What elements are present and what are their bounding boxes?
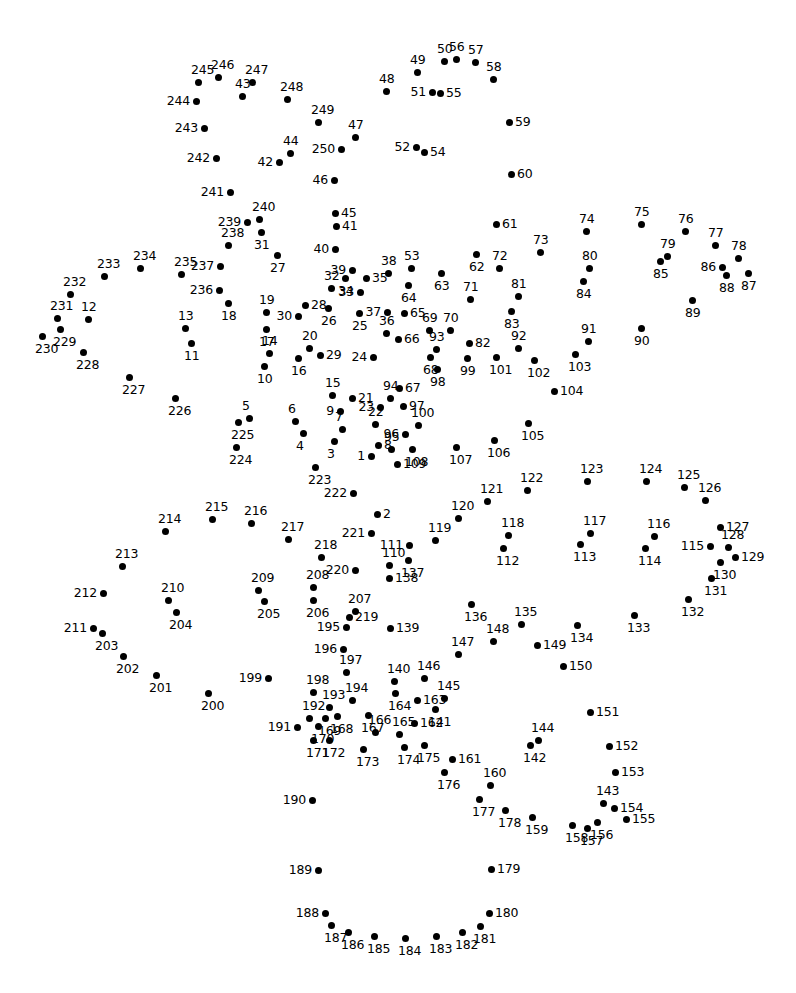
dot-point-155 bbox=[623, 816, 630, 823]
dot-point-61 bbox=[493, 221, 500, 228]
dot-point-14 bbox=[266, 350, 273, 357]
dot-number-218: 218 bbox=[314, 539, 337, 552]
dot-point-138 bbox=[386, 575, 393, 582]
dot-number-80: 80 bbox=[582, 250, 598, 263]
dot-point-190 bbox=[309, 797, 316, 804]
dot-point-128 bbox=[725, 544, 732, 551]
dot-point-232 bbox=[67, 291, 74, 298]
dot-point-109 bbox=[394, 461, 401, 468]
dot-number-242: 242 bbox=[187, 152, 210, 165]
dot-number-224: 224 bbox=[229, 454, 252, 467]
dot-point-212 bbox=[100, 590, 107, 597]
dot-point-89 bbox=[689, 297, 696, 304]
dot-point-58 bbox=[490, 76, 497, 83]
dot-number-233: 233 bbox=[97, 258, 120, 271]
dot-point-5 bbox=[246, 415, 253, 422]
dot-point-101 bbox=[493, 354, 500, 361]
dot-point-23 bbox=[377, 404, 384, 411]
dot-number-115: 115 bbox=[681, 540, 704, 553]
dot-point-68 bbox=[427, 354, 434, 361]
dot-number-91: 91 bbox=[581, 323, 597, 336]
dot-point-168 bbox=[334, 713, 341, 720]
dot-point-19 bbox=[263, 309, 270, 316]
dot-point-119 bbox=[432, 537, 439, 544]
dot-number-173: 173 bbox=[356, 756, 379, 769]
dot-point-217 bbox=[285, 536, 292, 543]
dot-number-13: 13 bbox=[178, 310, 194, 323]
dot-number-96: 96 bbox=[383, 428, 399, 441]
dot-number-149: 149 bbox=[543, 639, 566, 652]
dot-point-92 bbox=[515, 345, 522, 352]
dot-number-155: 155 bbox=[632, 813, 655, 826]
dot-number-150: 150 bbox=[569, 660, 592, 673]
dot-number-26: 26 bbox=[321, 315, 337, 328]
dot-number-199: 199 bbox=[239, 672, 262, 685]
dot-point-40 bbox=[332, 246, 339, 253]
dot-point-16 bbox=[295, 355, 302, 362]
dot-number-76: 76 bbox=[678, 213, 694, 226]
dot-number-5: 5 bbox=[242, 400, 250, 413]
dot-number-231: 231 bbox=[50, 300, 73, 313]
dot-number-124: 124 bbox=[639, 463, 662, 476]
dot-point-182 bbox=[459, 929, 466, 936]
dot-point-94 bbox=[387, 395, 394, 402]
dot-number-129: 129 bbox=[741, 551, 764, 564]
dot-point-91 bbox=[585, 338, 592, 345]
dot-number-86: 86 bbox=[700, 261, 716, 274]
dot-number-57: 57 bbox=[468, 44, 484, 57]
dot-point-225 bbox=[235, 419, 242, 426]
dot-point-163 bbox=[414, 697, 421, 704]
dot-point-173 bbox=[360, 746, 367, 753]
dot-number-240: 240 bbox=[252, 201, 275, 214]
dot-point-193 bbox=[326, 704, 333, 711]
dot-point-4 bbox=[300, 430, 307, 437]
dot-number-143: 143 bbox=[596, 785, 619, 798]
dot-point-105 bbox=[525, 420, 532, 427]
dot-point-82 bbox=[466, 340, 473, 347]
dot-number-63: 63 bbox=[434, 280, 450, 293]
dot-number-122: 122 bbox=[520, 472, 543, 485]
dot-point-31 bbox=[258, 229, 265, 236]
dot-number-131: 131 bbox=[704, 585, 727, 598]
dot-number-51: 51 bbox=[410, 86, 426, 99]
dot-number-176: 176 bbox=[437, 779, 460, 792]
dot-number-30: 30 bbox=[276, 310, 292, 323]
dot-point-79 bbox=[664, 253, 671, 260]
dot-number-207: 207 bbox=[348, 593, 371, 606]
dot-point-183 bbox=[433, 933, 440, 940]
dot-point-153 bbox=[612, 769, 619, 776]
dot-number-102: 102 bbox=[527, 367, 550, 380]
dot-number-23: 23 bbox=[358, 401, 374, 414]
dot-point-15 bbox=[329, 392, 336, 399]
dot-point-135 bbox=[518, 621, 525, 628]
dot-point-106 bbox=[491, 437, 498, 444]
dot-point-49 bbox=[414, 69, 421, 76]
dot-number-163: 163 bbox=[423, 694, 446, 707]
dot-number-100: 100 bbox=[411, 407, 434, 420]
dot-point-99 bbox=[464, 355, 471, 362]
dot-point-75 bbox=[638, 221, 645, 228]
dot-point-97 bbox=[400, 403, 407, 410]
dot-point-147 bbox=[455, 651, 462, 658]
dot-point-203 bbox=[99, 630, 106, 637]
dot-point-156 bbox=[594, 819, 601, 826]
dot-point-131 bbox=[708, 575, 715, 582]
dot-point-185 bbox=[371, 933, 378, 940]
dot-point-218 bbox=[318, 554, 325, 561]
dot-number-47: 47 bbox=[348, 119, 364, 132]
dot-point-118 bbox=[505, 532, 512, 539]
dot-number-197: 197 bbox=[339, 654, 362, 667]
dot-point-121 bbox=[484, 498, 491, 505]
dot-number-120: 120 bbox=[451, 500, 474, 513]
dot-number-118: 118 bbox=[501, 517, 524, 530]
dot-point-230 bbox=[39, 333, 46, 340]
dot-point-233 bbox=[101, 273, 108, 280]
dot-number-188: 188 bbox=[296, 907, 319, 920]
dot-point-149 bbox=[534, 642, 541, 649]
dot-point-129 bbox=[732, 554, 739, 561]
dot-point-164 bbox=[392, 690, 399, 697]
dot-point-6 bbox=[292, 418, 299, 425]
dot-point-244 bbox=[193, 98, 200, 105]
dot-number-114: 114 bbox=[638, 555, 661, 568]
dot-point-236 bbox=[216, 287, 223, 294]
